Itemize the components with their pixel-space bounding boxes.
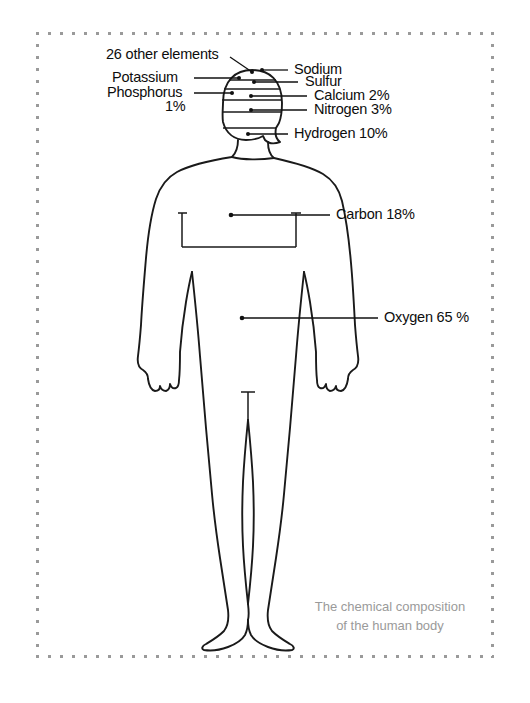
leader-dot-other-elements xyxy=(250,70,254,74)
leader-dot-sulfur xyxy=(252,80,256,84)
leader-other-elements xyxy=(230,57,252,72)
label-one-percent: 1% xyxy=(165,99,186,114)
carbon-band-bracket xyxy=(178,213,301,247)
label-oxygen: Oxygen 65 % xyxy=(384,310,469,325)
shoulder-line xyxy=(232,157,274,159)
torso-and-arms-outline xyxy=(138,140,238,391)
leader-dot-sodium xyxy=(260,68,264,72)
carbon-band-left-tick xyxy=(178,213,187,222)
label-hydrogen: Hydrogen 10% xyxy=(294,126,388,141)
leader-dot-hydrogen xyxy=(246,132,250,136)
caption-line-2: of the human body xyxy=(305,617,475,636)
figure-caption: The chemical composition of the human bo… xyxy=(305,598,475,636)
leader-dot-nitrogen xyxy=(249,108,253,112)
leader-dot-oxygen xyxy=(240,316,245,321)
label-carbon-text: Carbon 18% xyxy=(336,206,415,222)
inner-right-leg-line xyxy=(248,420,254,604)
leader-dot-potassium xyxy=(237,76,241,80)
label-other-elements: 26 other elements xyxy=(106,47,219,62)
label-other-elements-text: 26 other elements xyxy=(106,46,219,62)
label-nitrogen-text: Nitrogen 3% xyxy=(314,101,392,117)
label-one-percent-text: 1% xyxy=(165,98,186,114)
label-carbon: Carbon 18% xyxy=(336,207,415,222)
caption-line-1: The chemical composition xyxy=(305,598,475,617)
leader-dot-carbon xyxy=(229,213,234,218)
label-potassium-text: Potassium xyxy=(112,69,178,85)
label-oxygen-text: Oxygen 65 % xyxy=(384,309,469,325)
inner-left-leg-line xyxy=(242,420,249,620)
label-potassium: Potassium xyxy=(112,70,178,85)
left-leg-outline xyxy=(192,272,248,650)
leader-dot-phosphorus xyxy=(230,91,234,95)
label-hydrogen-text: Hydrogen 10% xyxy=(294,125,388,141)
right-leg-outline xyxy=(248,272,304,650)
head-segment-lines xyxy=(222,80,282,128)
human-silhouette-outline xyxy=(138,70,359,650)
leader-dot-calcium xyxy=(249,94,253,98)
label-nitrogen: Nitrogen 3% xyxy=(314,102,392,117)
torso-right-arm-outline xyxy=(268,142,358,391)
figure-root: 26 other elements Potassium Phosphorus 1… xyxy=(0,0,530,703)
